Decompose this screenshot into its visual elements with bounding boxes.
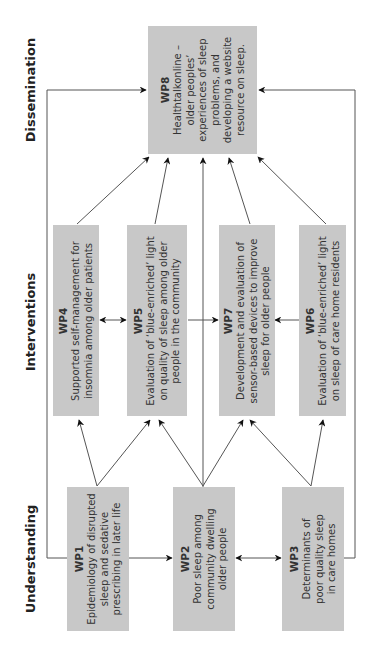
wp8-line: problems, and — [209, 37, 222, 144]
edge-wp2-wp5 — [159, 420, 203, 486]
wp1-line: sleep and sedative — [98, 493, 111, 624]
wp2-line: older people — [217, 508, 230, 609]
edge-wp3-wp7 — [250, 420, 311, 486]
edge-wp6-wp8 — [258, 157, 326, 224]
wp6-line: on sleep of care home residents — [329, 236, 342, 405]
wp7-line: Development and evaluation of — [235, 238, 248, 403]
stage-label-interventions: Interventions — [23, 273, 38, 372]
edge-wp1-wp4 — [79, 420, 97, 486]
box-wp2: WP2 Poor sleep among community dwelling … — [173, 487, 235, 631]
wp2-line: Poor sleep among — [192, 508, 205, 609]
wp8-line: developing a website — [222, 37, 235, 144]
wp6-line: Evaluation of ‘blue-enriched’ light — [317, 236, 330, 405]
wp8-id: WP8 — [159, 37, 172, 144]
box-wp7: WP7 Development and evaluation of sensor… — [219, 225, 275, 416]
wp4-id: WP4 — [57, 241, 70, 401]
wp5-line: Evaluation of ‘blue-enriched’ light — [145, 236, 158, 405]
box-wp6: WP6 Evaluation of ‘blue-enriched’ light … — [299, 225, 346, 416]
edge-wp1-wp5 — [97, 420, 150, 486]
box-wp4: WP4 Supported self-management for insomn… — [53, 225, 99, 416]
wp8-line: older peoples’ — [184, 37, 197, 144]
box-wp5: WP5 Evaluation of ‘blue-enriched’ light … — [127, 225, 187, 416]
wp7-id: WP7 — [222, 238, 235, 403]
wp2-id: WP2 — [179, 508, 192, 609]
wp8-line: Healthtalkonline – — [172, 37, 185, 144]
wp8-line: experiences of sleep — [197, 37, 210, 144]
wp2-line: community dwelling — [204, 508, 217, 609]
edge-wp5-wp8 — [155, 158, 168, 224]
wp5-line: people in the community — [170, 236, 183, 405]
stage-label-understanding: Understanding — [23, 505, 38, 614]
wp7-line: sleep for older people — [260, 238, 273, 403]
wp1-id: WP1 — [73, 493, 86, 624]
wp1-line: Epidemiology of disrupted — [86, 493, 99, 624]
wp7-line: sensor-based devices to improve — [247, 238, 260, 403]
box-wp1: WP1 Epidemiology of disrupted sleep and … — [67, 487, 129, 631]
wp3-line: in care homes — [326, 514, 339, 604]
edge-wp7-wp8 — [229, 158, 250, 224]
wp5-id: WP5 — [132, 236, 145, 405]
diagram-canvas: Dissemination Interventions Understandin… — [0, 0, 374, 672]
wp8-line: resource on sleep. — [234, 37, 247, 144]
stage-label-dissemination: Dissemination — [23, 38, 38, 142]
box-wp3: WP3 Determinants of poor quality sleep i… — [282, 487, 344, 631]
wp4-line: Supported self-management for — [70, 241, 83, 401]
wp6-id: WP6 — [304, 236, 317, 405]
wp5-line: on quality of sleep among older — [157, 236, 170, 405]
edge-wp3-wp6 — [311, 420, 323, 486]
wp3-line: poor quality sleep — [313, 514, 326, 604]
edge-wp2-wp7 — [203, 420, 243, 486]
wp1-line: prescribing in later life — [111, 493, 124, 624]
wp3-line: Determinants of — [301, 514, 314, 604]
box-wp8: WP8 Healthtalkonline – older peoples’ ex… — [148, 26, 257, 154]
edge-wp4-wp8 — [77, 157, 149, 224]
wp3-id: WP3 — [288, 514, 301, 604]
wp4-line: insomnia among older patients — [83, 241, 96, 401]
